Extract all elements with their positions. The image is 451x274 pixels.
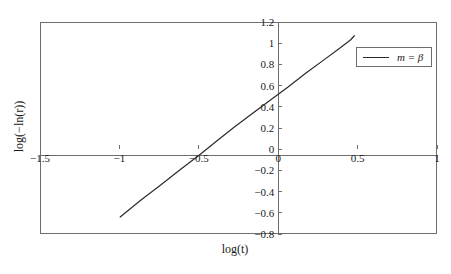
y-tick-label: −0.6 — [234, 207, 274, 219]
x-tick-label: 0.5 — [351, 152, 365, 164]
y-tick-mark — [278, 43, 282, 44]
x-tick-label: 0 — [275, 152, 281, 164]
legend-box: m = β — [356, 47, 432, 67]
y-tick-mark — [278, 234, 282, 235]
y-tick-label: 0.2 — [234, 122, 274, 134]
x-axis-title: log(t) — [0, 242, 451, 257]
x-tick-mark — [198, 145, 199, 149]
y-tick-label: −0.4 — [234, 186, 274, 198]
x-tick-mark — [357, 145, 358, 149]
x-tick-label: 1 — [434, 152, 440, 164]
y-tick-label: 1.2 — [234, 16, 274, 28]
legend-line-swatch — [363, 57, 389, 58]
x-tick-mark — [437, 145, 438, 149]
y-tick-label: 1 — [234, 37, 274, 49]
x-tick-label: −1 — [114, 152, 126, 164]
y-tick-label: −0.8 — [234, 228, 274, 240]
y-tick-label: 0.6 — [234, 80, 274, 92]
x-tick-mark — [40, 145, 41, 149]
x-tick-label: −0.5 — [189, 152, 209, 164]
y-tick-mark — [278, 191, 282, 192]
figure-container: −1.5−1−0.500.511.210.80.60.40.20−0.2−0.4… — [0, 0, 451, 274]
legend-label: m = β — [397, 51, 423, 63]
y-tick-mark — [278, 106, 282, 107]
y-tick-mark — [278, 212, 282, 213]
y-tick-label: −0.2 — [234, 164, 274, 176]
y-tick-label: 0 — [234, 143, 274, 155]
y-tick-mark — [278, 85, 282, 86]
x-tick-mark — [119, 145, 120, 149]
y-tick-label: 0.4 — [234, 101, 274, 113]
y-tick-mark — [278, 149, 282, 150]
x-tick-label: −1.5 — [30, 152, 50, 164]
y-tick-label: 0.8 — [234, 58, 274, 70]
y-tick-mark — [278, 64, 282, 65]
y-tick-mark — [278, 170, 282, 171]
y-tick-mark — [278, 22, 282, 23]
y-axis-title: log(−ln(r)) — [12, 62, 27, 192]
y-axis-line — [278, 22, 279, 235]
y-tick-mark — [278, 128, 282, 129]
